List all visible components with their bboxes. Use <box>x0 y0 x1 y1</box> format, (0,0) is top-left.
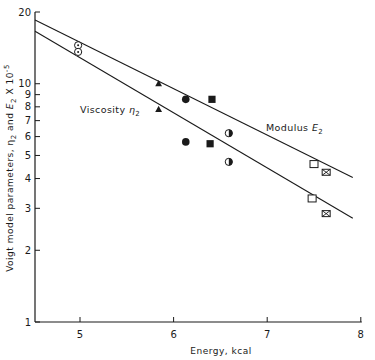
y-tick-label: 7 <box>25 115 31 126</box>
viscosity-data-point <box>322 211 330 217</box>
modulus-data-point <box>310 161 318 168</box>
y-tick-label: 9 <box>25 89 31 100</box>
modulus-fit-line <box>35 20 353 177</box>
modulus-label: Modulus E2 <box>266 122 323 136</box>
y-axis-title-main: Voigt model parameters, η <box>5 139 15 272</box>
x-axis-title: Energy, kcal <box>190 346 251 356</box>
viscosity-data-point <box>225 158 232 165</box>
modulus-data-point <box>75 42 82 49</box>
axes: 12345678910205678 <box>18 7 364 341</box>
viscosity-label: Viscosity η2 <box>80 104 140 118</box>
y-tick-label: 10 <box>18 78 31 89</box>
triangle-icon <box>155 80 162 86</box>
y-axis-title: Voigt model parameters, η2 and E2 X 10-5 <box>3 64 18 272</box>
modulus-data-point <box>182 96 190 104</box>
filled-circle-icon <box>182 138 190 146</box>
y-tick-label: 1 <box>25 317 31 328</box>
modulus-data-point <box>322 169 330 175</box>
open-square-icon <box>310 161 318 168</box>
filled-square-icon <box>208 96 215 103</box>
y-tick-label: 4 <box>25 173 31 184</box>
fit-lines <box>35 20 353 218</box>
x-tick-label: 8 <box>358 329 364 340</box>
filled-square-icon <box>207 140 214 147</box>
x-tick-label: 6 <box>170 329 176 340</box>
svg-text:Voigt model parameters, η2 and: Voigt model parameters, η2 and E2 X 10-5 <box>3 64 18 272</box>
viscosity-data-point <box>155 106 162 112</box>
x-tick-label: 5 <box>77 329 83 340</box>
y-tick-label: 8 <box>25 101 31 112</box>
y-tick-label: 6 <box>25 131 31 142</box>
y-tick-label: 3 <box>25 203 31 214</box>
triangle-icon <box>155 106 162 112</box>
modulus-data-point <box>208 96 215 103</box>
filled-circle-icon <box>182 96 190 104</box>
viscosity-data-point <box>75 48 82 55</box>
y-tick-label: 5 <box>25 150 31 161</box>
open-square-icon <box>308 195 316 202</box>
viscosity-data-point <box>207 140 214 147</box>
x-tick-label: 7 <box>264 329 270 340</box>
viscosity-data-point <box>182 138 190 146</box>
modulus-data-point <box>225 130 232 137</box>
viscosity-data-point <box>308 195 316 202</box>
y-tick-label: 20 <box>18 7 31 18</box>
chart: 12345678910205678 Energy, kcal Voigt mod… <box>0 0 375 360</box>
modulus-data-point <box>155 80 162 86</box>
y-tick-label: 2 <box>25 245 31 256</box>
